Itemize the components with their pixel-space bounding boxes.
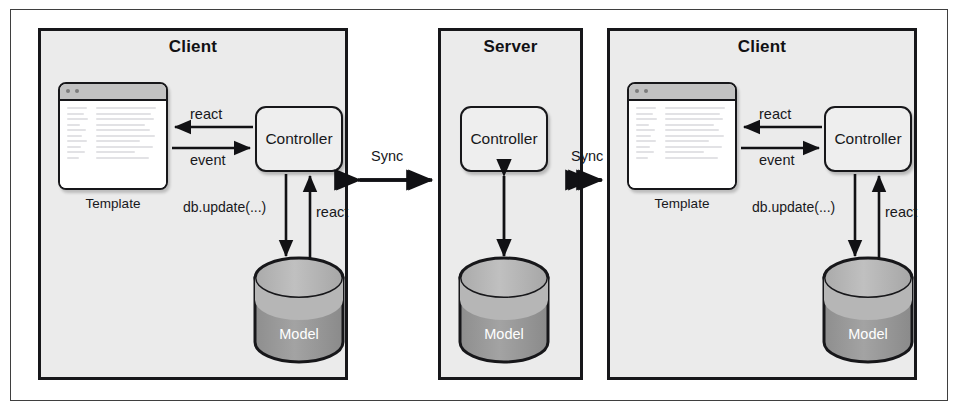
database-cylinder-icon: [457, 256, 551, 364]
window-dot-icon: [635, 89, 639, 93]
panel-title-server: Server: [441, 37, 580, 57]
window-dot-icon: [66, 89, 70, 93]
database-cylinder-icon: [252, 256, 346, 364]
model-cylinder-client-left: Model: [252, 256, 346, 364]
template-caption-right: Template: [627, 196, 737, 211]
controller-box-client-left: Controller: [255, 106, 343, 172]
edge-label-sync-left: Sync: [371, 148, 403, 164]
edge-label-event-left: event: [190, 152, 225, 168]
template-text-column: [67, 107, 89, 188]
template-caption-left: Template: [58, 196, 168, 211]
template-text-column: [96, 107, 159, 188]
model-cylinder-client-right: Model: [821, 256, 915, 364]
panel-title-client-right: Client: [610, 37, 914, 57]
diagram-canvas: Client: [0, 0, 962, 417]
window-dot-icon: [75, 89, 79, 93]
template-titlebar-left: [60, 84, 166, 101]
database-cylinder-icon: [821, 256, 915, 364]
edge-label-react-right: react: [759, 106, 791, 122]
edge-label-react-model-left: react: [316, 204, 348, 220]
edge-label-react-left: react: [190, 106, 222, 122]
edge-label-dbupdate-left: db.update(...): [183, 199, 266, 215]
controller-box-client-right: Controller: [824, 106, 912, 172]
controller-box-server: Controller: [460, 106, 548, 172]
model-cylinder-server: Model: [457, 256, 551, 364]
template-body-right: [629, 101, 735, 188]
edge-label-react-model-right: react: [885, 204, 917, 220]
template-titlebar-right: [629, 84, 735, 101]
panel-title-client-left: Client: [41, 37, 345, 57]
edge-label-sync-right: Sync: [571, 148, 603, 164]
template-window-left: [58, 82, 168, 190]
edge-label-event-right: event: [759, 152, 794, 168]
edge-label-dbupdate-right: db.update(...): [752, 199, 835, 215]
template-body-left: [60, 101, 166, 188]
window-dot-icon: [644, 89, 648, 93]
template-text-column: [636, 107, 658, 188]
template-window-right: [627, 82, 737, 190]
template-text-column: [665, 107, 728, 188]
